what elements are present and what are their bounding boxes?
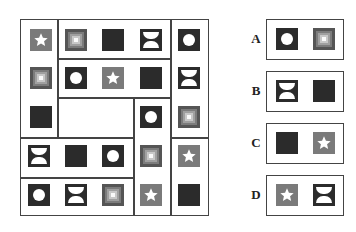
hourglass-tile-icon bbox=[276, 80, 298, 102]
black-tile-icon bbox=[140, 67, 162, 89]
grid-divider bbox=[133, 97, 135, 216]
option-label-d: D bbox=[250, 187, 262, 203]
hourglass-tile-icon bbox=[28, 145, 50, 167]
star-tile-icon bbox=[140, 184, 162, 206]
concentric-tile-icon bbox=[30, 67, 52, 89]
star-tile-icon bbox=[102, 67, 124, 89]
black-tile-icon bbox=[102, 29, 124, 51]
star-tile-icon bbox=[276, 184, 298, 206]
grid-divider bbox=[170, 137, 209, 139]
star-tile-icon bbox=[30, 29, 52, 51]
circle-tile-icon bbox=[65, 67, 87, 89]
concentric-tile-icon bbox=[178, 106, 200, 128]
grid-divider bbox=[170, 19, 172, 216]
circle-tile-icon bbox=[28, 184, 50, 206]
option-label-b: B bbox=[250, 83, 262, 99]
star-tile-icon bbox=[178, 145, 200, 167]
black-tile-icon bbox=[30, 106, 52, 128]
circle-tile-icon bbox=[276, 28, 298, 50]
hourglass-tile-icon bbox=[140, 29, 162, 51]
hourglass-tile-icon bbox=[313, 184, 335, 206]
option-label-c: C bbox=[250, 135, 262, 151]
black-tile-icon bbox=[178, 184, 200, 206]
black-tile-icon bbox=[313, 80, 335, 102]
missing-cell bbox=[59, 99, 132, 136]
concentric-tile-icon bbox=[65, 29, 87, 51]
circle-tile-icon bbox=[102, 145, 124, 167]
grid-divider bbox=[20, 137, 134, 139]
hourglass-tile-icon bbox=[65, 184, 87, 206]
grid-divider bbox=[57, 58, 171, 60]
circle-tile-icon bbox=[140, 106, 162, 128]
black-tile-icon bbox=[276, 132, 298, 154]
grid-divider bbox=[20, 177, 134, 179]
star-tile-icon bbox=[313, 132, 335, 154]
circle-tile-icon bbox=[178, 29, 200, 51]
hourglass-tile-icon bbox=[178, 67, 200, 89]
concentric-tile-icon bbox=[313, 28, 335, 50]
concentric-tile-icon bbox=[140, 145, 162, 167]
concentric-tile-icon bbox=[102, 184, 124, 206]
option-label-a: A bbox=[250, 31, 262, 47]
black-tile-icon bbox=[65, 145, 87, 167]
